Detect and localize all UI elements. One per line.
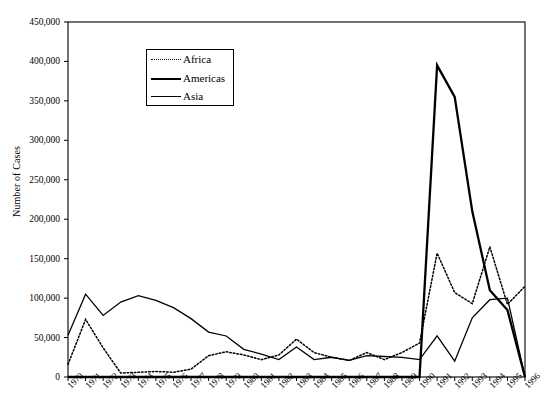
plot-area	[0, 0, 550, 416]
legend-swatch-africa	[151, 59, 181, 60]
y-axis-tick-label-text: 50,000	[8, 333, 60, 343]
legend-label-americas: Americas	[183, 72, 225, 85]
y-axis-tick-label-text: 200,000	[8, 214, 60, 224]
y-axis-tick-label: 50,000	[8, 333, 60, 343]
y-axis-tick-label: 100,000	[8, 293, 60, 303]
series-line-africa	[68, 247, 525, 373]
legend-item-africa: Africa	[147, 50, 233, 69]
y-axis-tick-label-text: 250,000	[8, 175, 60, 185]
y-axis-tick-label: 150,000	[8, 254, 60, 264]
series-line-asia	[68, 294, 525, 377]
legend-swatch-americas	[151, 78, 181, 80]
series-line-americas	[68, 65, 525, 377]
chart-figure: Number of Cases 050,000100,000150,000200…	[0, 0, 550, 416]
legend-item-asia: Asia	[147, 87, 233, 106]
plot-frame	[68, 22, 525, 377]
y-axis-tick-label: 450,000	[8, 17, 60, 27]
y-axis-tick-label: 350,000	[8, 96, 60, 106]
y-axis-tick-label-text: 300,000	[8, 135, 60, 145]
legend-swatch-asia	[151, 96, 181, 97]
y-axis-tick-label-text: 0	[8, 372, 60, 382]
axes	[64, 22, 525, 381]
y-axis-tick-label: 0	[8, 372, 60, 382]
y-axis-tick-label: 300,000	[8, 135, 60, 145]
y-axis-tick-label-text: 150,000	[8, 254, 60, 264]
legend-label-africa: Africa	[183, 53, 211, 66]
y-axis-tick-label-text: 100,000	[8, 293, 60, 303]
y-axis-tick-label: 400,000	[8, 56, 60, 66]
y-axis-tick-label-text: 400,000	[8, 56, 60, 66]
y-axis-tick-label: 200,000	[8, 214, 60, 224]
series-lines	[68, 65, 525, 377]
legend: Africa Americas Asia	[146, 49, 234, 106]
y-axis-tick-label: 250,000	[8, 175, 60, 185]
legend-label-asia: Asia	[183, 90, 203, 103]
y-axis-tick-label-text: 350,000	[8, 96, 60, 106]
y-axis-tick-label-text: 450,000	[8, 17, 60, 27]
legend-item-americas: Americas	[147, 69, 233, 88]
